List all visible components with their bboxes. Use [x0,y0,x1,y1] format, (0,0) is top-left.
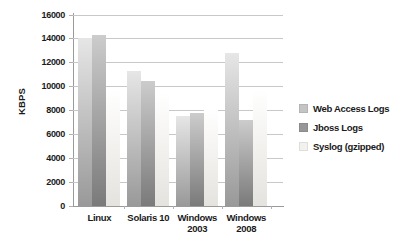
x-axis-line [73,206,284,207]
y-tick-mark [69,158,73,159]
bar-syslog-gzipped-linux [106,89,120,206]
y-tick-mark [69,62,73,63]
bar-web-access-logs-windows-2008 [225,53,239,206]
legend-label: Jboss Logs [313,122,363,133]
y-tick-label-12000: 12000 [41,57,65,67]
legend-swatch-icon [299,104,308,113]
bar-chart: KBPS Web Access LogsJboss LogsSyslog (gz… [0,0,398,250]
x-tick-mark [222,206,223,209]
x-category-label-solaris-10: Solaris 10 [121,212,175,223]
bar-jboss-logs-windows-2008 [239,120,253,206]
legend-label: Syslog (gzipped) [313,141,384,152]
bar-jboss-logs-solaris-10 [141,81,155,206]
gridline-16000 [73,15,283,16]
x-category-label-windows-2003: Windows 2003 [170,212,224,234]
x-category-label-windows-2008: Windows 2008 [219,212,273,234]
y-tick-mark [69,110,73,111]
legend-item-web-access-logs: Web Access Logs [299,103,389,113]
bar-syslog-gzipped-solaris-10 [155,93,169,206]
y-tick-mark [69,15,73,16]
legend-label: Web Access Logs [313,103,389,114]
y-tick-label-16000: 16000 [41,10,65,20]
legend: Web Access LogsJboss LogsSyslog (gzipped… [299,103,389,160]
x-tick-mark [124,206,125,209]
y-tick-label-14000: 14000 [41,33,65,43]
legend-item-syslog-gzipped: Syslog (gzipped) [299,141,389,151]
plot-area [73,15,283,206]
y-tick-mark [69,86,73,87]
bar-web-access-logs-windows-2003 [176,116,190,206]
y-axis-title: KBPS [16,87,27,117]
y-tick-label-4000: 4000 [46,153,65,163]
bar-jboss-logs-linux [92,35,106,206]
y-tick-mark [69,134,73,135]
legend-swatch-icon [299,142,308,151]
y-tick-mark [69,38,73,39]
x-category-label-linux: Linux [72,212,126,223]
bar-jboss-logs-windows-2003 [190,113,204,206]
bar-syslog-gzipped-windows-2003 [204,109,218,206]
legend-item-jboss-logs: Jboss Logs [299,122,389,132]
x-tick-mark [173,206,174,209]
y-tick-mark [69,182,73,183]
bar-syslog-gzipped-windows-2008 [253,89,267,206]
y-tick-mark [69,206,73,207]
y-tick-label-8000: 8000 [46,105,65,115]
legend-swatch-icon [299,123,308,132]
y-tick-label-6000: 6000 [46,129,65,139]
bar-web-access-logs-linux [78,38,92,206]
y-tick-label-0: 0 [60,201,65,211]
y-tick-label-2000: 2000 [46,177,65,187]
x-tick-mark [271,206,272,209]
y-tick-label-10000: 10000 [41,81,65,91]
bar-web-access-logs-solaris-10 [127,71,141,206]
